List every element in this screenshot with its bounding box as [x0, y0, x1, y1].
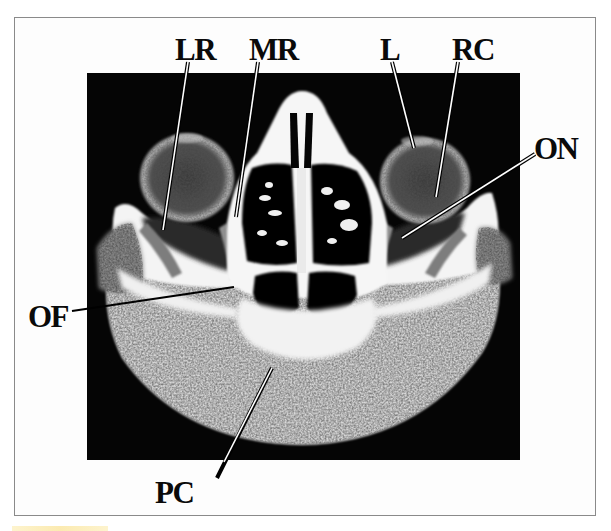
label-rc: RC [452, 34, 494, 65]
ct-scan-image [87, 73, 520, 460]
ct-scan-graphic [87, 73, 520, 460]
highlight-smudge [12, 526, 108, 531]
label-pc: PC [155, 477, 193, 508]
label-lr: LR [175, 34, 215, 65]
label-mr: MR [249, 34, 298, 65]
label-on: ON [534, 133, 578, 164]
label-l: L [380, 34, 399, 65]
label-of: OF [28, 301, 68, 332]
